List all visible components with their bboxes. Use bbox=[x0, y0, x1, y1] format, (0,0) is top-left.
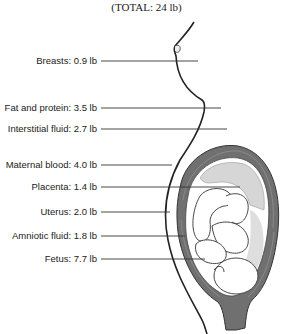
label-fetus: Fetus: 7.7 lb bbox=[45, 253, 97, 264]
label-interstitial-fluid: Interstitial fluid: 2.7 lb bbox=[8, 123, 97, 134]
label-uterus: Uterus: 2.0 lb bbox=[41, 206, 98, 217]
label-placenta: Placenta: 1.4 lb bbox=[32, 181, 98, 192]
label-breasts: Breasts: 0.9 lb bbox=[36, 55, 97, 66]
label-amniotic-fluid: Amniotic fluid: 1.8 lb bbox=[12, 230, 97, 241]
nipple bbox=[175, 45, 180, 52]
label-fat-and-protein: Fat and protein: 3.5 lb bbox=[5, 102, 97, 113]
label-maternal-blood: Maternal blood: 4.0 lb bbox=[6, 159, 97, 170]
